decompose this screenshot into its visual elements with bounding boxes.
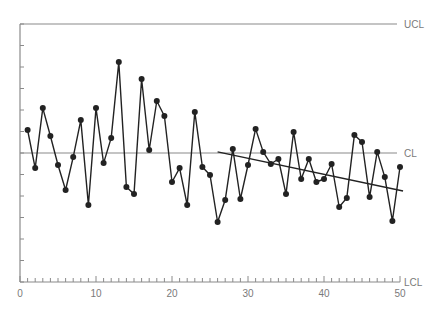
data-point	[222, 197, 228, 203]
data-point	[344, 195, 350, 201]
data-point	[116, 59, 122, 65]
x-tick-label: 10	[90, 288, 102, 299]
data-point	[260, 149, 266, 155]
data-point	[47, 133, 53, 139]
data-point	[139, 76, 145, 82]
data-point	[245, 162, 251, 168]
data-point	[70, 154, 76, 160]
data-point	[169, 179, 175, 185]
data-point	[123, 184, 129, 190]
control-chart: UCLCLLCL01020304050	[0, 0, 444, 314]
data-point	[85, 202, 91, 208]
data-point	[321, 176, 327, 182]
data-point	[283, 191, 289, 197]
control-lines	[20, 24, 397, 153]
x-tick-label: 50	[394, 288, 406, 299]
data-point	[146, 147, 152, 153]
data-point	[253, 126, 259, 132]
x-tick-label: 20	[166, 288, 178, 299]
data-point	[359, 139, 365, 145]
data-point	[93, 105, 99, 111]
data-point	[374, 149, 380, 155]
data-point	[192, 109, 198, 115]
data-point	[306, 156, 312, 162]
cl-label: CL	[404, 148, 417, 159]
data-point	[313, 179, 319, 185]
data-point	[40, 105, 46, 111]
data-point	[389, 218, 395, 224]
data-point	[298, 176, 304, 182]
data-point	[55, 162, 61, 168]
data-point	[199, 164, 205, 170]
data-point	[382, 174, 388, 180]
data-point	[329, 161, 335, 167]
data-point	[237, 196, 243, 202]
data-point	[184, 202, 190, 208]
data-point	[25, 127, 31, 133]
x-tick-label: 0	[17, 288, 23, 299]
data-point	[177, 165, 183, 171]
data-point	[207, 172, 213, 178]
x-tick-label: 40	[318, 288, 330, 299]
data-point	[154, 98, 160, 104]
data-point	[101, 160, 107, 166]
x-tick-label: 30	[242, 288, 254, 299]
data-point	[108, 135, 114, 141]
axis-labels: UCLCLLCL01020304050	[17, 19, 424, 299]
data-point	[215, 219, 221, 225]
data-point	[32, 165, 38, 171]
lcl-label: LCL	[404, 277, 423, 288]
data-point	[351, 132, 357, 138]
data-point	[230, 146, 236, 152]
data-point	[63, 187, 69, 193]
data-point	[268, 161, 274, 167]
data-point	[275, 156, 281, 162]
data-point	[397, 164, 403, 170]
data-point	[336, 204, 342, 210]
data-point	[78, 117, 84, 123]
ucl-label: UCL	[404, 19, 424, 30]
data-point	[291, 129, 297, 135]
data-point	[367, 194, 373, 200]
data-point	[161, 113, 167, 119]
data-point	[131, 191, 137, 197]
data-series	[25, 59, 403, 225]
